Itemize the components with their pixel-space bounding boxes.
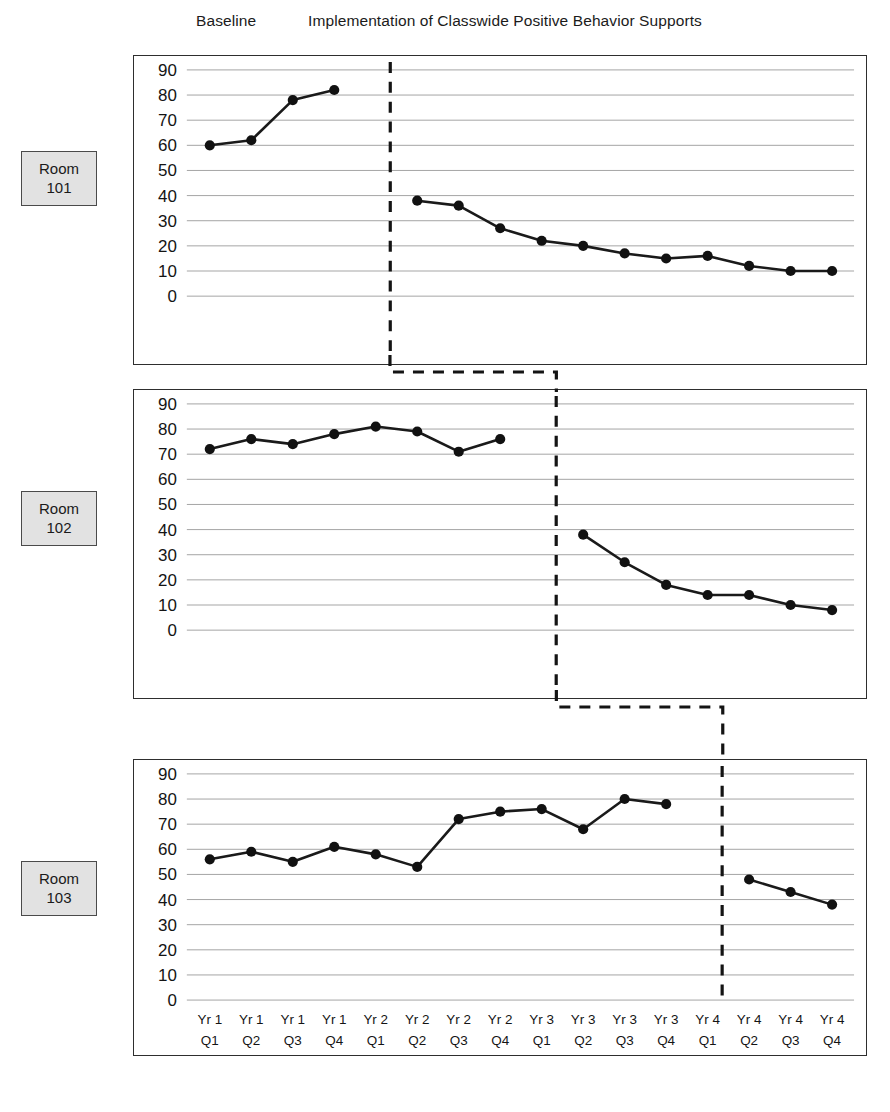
data-point xyxy=(205,854,215,864)
data-point xyxy=(454,201,464,211)
data-point xyxy=(454,814,464,824)
data-point xyxy=(288,857,298,867)
y-axis-tick-label: 80 xyxy=(158,420,177,439)
y-axis-tick-label: 90 xyxy=(158,765,177,784)
x-axis-tick-year: Yr 1 xyxy=(322,1012,347,1027)
y-axis-tick-label: 40 xyxy=(158,521,177,540)
room-label-102-line1: Room xyxy=(39,500,79,517)
y-axis-tick-label: 70 xyxy=(158,815,177,834)
y-axis-tick-label: 50 xyxy=(158,865,177,884)
data-point xyxy=(371,849,381,859)
y-axis-tick-label: 10 xyxy=(158,262,177,281)
data-point xyxy=(744,261,754,271)
data-point xyxy=(246,847,256,857)
x-axis-tick-year: Yr 4 xyxy=(695,1012,720,1027)
data-point xyxy=(329,842,339,852)
room-label-103-line2: 103 xyxy=(46,889,71,906)
data-point xyxy=(246,135,256,145)
data-point xyxy=(744,590,754,600)
y-axis-tick-label: 40 xyxy=(158,187,177,206)
room-label-101: Room 101 xyxy=(21,151,97,206)
x-axis-tick-year: Yr 1 xyxy=(197,1012,222,1027)
data-point xyxy=(371,421,381,431)
x-axis-tick-year: Yr 4 xyxy=(778,1012,803,1027)
y-axis-tick-label: 80 xyxy=(158,86,177,105)
y-axis-tick-label: 40 xyxy=(158,891,177,910)
data-point xyxy=(786,600,796,610)
x-axis-tick-year: Yr 2 xyxy=(405,1012,430,1027)
y-axis-tick-label: 0 xyxy=(167,287,176,306)
x-axis-tick-year: Yr 3 xyxy=(571,1012,596,1027)
x-axis-tick-year: Yr 4 xyxy=(737,1012,762,1027)
data-point xyxy=(205,140,215,150)
y-axis-tick-label: 60 xyxy=(158,136,177,155)
x-axis-tick-quarter: Q3 xyxy=(782,1033,800,1048)
room-label-103-line1: Room xyxy=(39,870,79,887)
data-point xyxy=(786,887,796,897)
x-axis-tick-year: Yr 2 xyxy=(488,1012,513,1027)
data-point xyxy=(620,248,630,258)
plot-area-room-101: 9080706050403020100 xyxy=(134,56,866,364)
data-point xyxy=(288,439,298,449)
data-point xyxy=(661,799,671,809)
x-axis-tick-quarter: Q2 xyxy=(242,1033,260,1048)
chart-panel-room-102: 9080706050403020100 xyxy=(133,389,867,699)
y-axis-tick-label: 10 xyxy=(158,966,177,985)
x-axis-tick-year: Yr 1 xyxy=(239,1012,264,1027)
data-line-baseline xyxy=(210,799,666,867)
y-axis-tick-label: 80 xyxy=(158,790,177,809)
y-axis-tick-label: 60 xyxy=(158,470,177,489)
y-axis-tick-label: 20 xyxy=(158,237,177,256)
y-axis-tick-label: 90 xyxy=(158,61,177,80)
room-label-102-line2: 102 xyxy=(46,519,71,536)
x-axis-tick-quarter: Q1 xyxy=(533,1033,551,1048)
multiple-baseline-figure: Baseline Implementation of Classwide Pos… xyxy=(0,0,890,1112)
room-label-101-line2: 101 xyxy=(46,179,71,196)
x-axis-tick-quarter: Q4 xyxy=(657,1033,675,1048)
phase-label-baseline: Baseline xyxy=(196,12,256,30)
data-point xyxy=(703,590,713,600)
data-point xyxy=(495,223,505,233)
y-axis-tick-label: 20 xyxy=(158,571,177,590)
y-axis-tick-label: 30 xyxy=(158,916,177,935)
y-axis-tick-label: 20 xyxy=(158,941,177,960)
plot-area-room-102: 9080706050403020100 xyxy=(134,390,866,698)
data-point xyxy=(578,530,588,540)
y-axis-tick-label: 0 xyxy=(167,991,176,1010)
phase-connector-102-to-103 xyxy=(556,690,722,762)
data-point xyxy=(454,447,464,457)
data-point xyxy=(703,251,713,261)
x-axis-tick-year: Yr 3 xyxy=(612,1012,637,1027)
data-point xyxy=(205,444,215,454)
x-axis-tick-quarter: Q4 xyxy=(491,1033,509,1048)
x-axis-tick-year: Yr 2 xyxy=(363,1012,388,1027)
x-axis-tick-year: Yr 2 xyxy=(446,1012,471,1027)
room-label-102: Room 102 xyxy=(21,491,97,546)
data-point xyxy=(661,253,671,263)
data-line-implementation xyxy=(417,201,832,271)
x-axis-tick-quarter: Q3 xyxy=(450,1033,468,1048)
room-label-101-line1: Room xyxy=(39,160,79,177)
data-point xyxy=(246,434,256,444)
plot-area-room-103: 9080706050403020100Yr 1Q1Yr 1Q2Yr 1Q3Yr … xyxy=(134,760,866,1055)
x-axis-tick-year: Yr 4 xyxy=(820,1012,845,1027)
chart-panel-room-103: 9080706050403020100Yr 1Q1Yr 1Q2Yr 1Q3Yr … xyxy=(133,759,867,1056)
data-point xyxy=(744,874,754,884)
data-point xyxy=(537,236,547,246)
data-point xyxy=(827,605,837,615)
y-axis-tick-label: 0 xyxy=(167,621,176,640)
x-axis-tick-quarter: Q4 xyxy=(325,1033,343,1048)
data-point xyxy=(620,794,630,804)
x-axis-tick-year: Yr 1 xyxy=(280,1012,305,1027)
data-point xyxy=(412,862,422,872)
x-axis-tick-quarter: Q2 xyxy=(574,1033,592,1048)
data-point xyxy=(827,900,837,910)
y-axis-tick-label: 10 xyxy=(158,596,177,615)
data-point xyxy=(288,95,298,105)
y-axis-tick-label: 50 xyxy=(158,495,177,514)
x-axis-tick-quarter: Q4 xyxy=(823,1033,841,1048)
y-axis-tick-label: 30 xyxy=(158,212,177,231)
x-axis-tick-quarter: Q1 xyxy=(201,1033,219,1048)
x-axis-tick-quarter: Q3 xyxy=(616,1033,634,1048)
data-line-baseline xyxy=(210,90,334,145)
